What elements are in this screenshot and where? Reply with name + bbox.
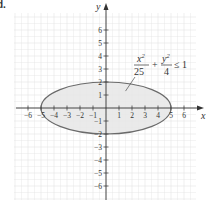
x-tick-label: 4 — [156, 111, 160, 120]
y-tick-label: −1 — [94, 117, 102, 126]
x-tick-label: 5 — [169, 111, 173, 120]
eq-denominator-2: 4 — [164, 66, 169, 77]
figure-part-label: d. — [0, 0, 6, 10]
y-tick-label: 6 — [98, 26, 102, 35]
x-tick-label: −2 — [76, 111, 84, 120]
graph-figure: −6−5−4−3−2−1123456−6−5−4−3−2−1123456 x y… — [0, 0, 211, 202]
x-axis-label: x — [200, 110, 206, 121]
eq-numerator-1: x2 — [136, 52, 145, 64]
y-tick-label: −5 — [94, 169, 102, 178]
y-tick-label: 4 — [98, 52, 102, 61]
x-tick-label: 2 — [130, 111, 134, 120]
eq-relation: ≤ 1 — [174, 59, 187, 70]
y-tick-label: −3 — [94, 143, 102, 152]
x-tick-label: −5 — [37, 111, 45, 120]
y-tick-label: −6 — [94, 182, 102, 191]
x-tick-label: −6 — [24, 111, 32, 120]
y-tick-label: 5 — [98, 39, 102, 48]
ellipse-inequality-plot: −6−5−4−3−2−1123456−6−5−4−3−2−1123456 x y… — [0, 0, 211, 202]
y-tick-label: −2 — [94, 130, 102, 139]
eq-numerator-2: y2 — [161, 52, 170, 64]
eq-plus: + — [152, 59, 158, 70]
x-tick-label: 1 — [117, 111, 121, 120]
y-axis-label: y — [95, 1, 101, 12]
x-tick-label: −4 — [50, 111, 58, 120]
x-tick-label: −3 — [63, 111, 71, 120]
y-tick-label: 3 — [98, 65, 102, 74]
y-tick-label: 2 — [98, 78, 102, 87]
y-tick-label: −4 — [94, 156, 102, 165]
x-tick-label: 6 — [182, 111, 186, 120]
y-tick-label: 1 — [98, 91, 102, 100]
eq-denominator-1: 25 — [134, 66, 144, 77]
x-tick-label: 3 — [143, 111, 147, 120]
y-axis-arrow-icon — [104, 3, 109, 10]
